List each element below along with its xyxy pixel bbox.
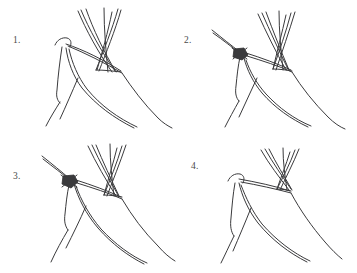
cover-group xyxy=(225,53,345,129)
cover-group xyxy=(51,180,175,264)
panel-4-drawing xyxy=(178,136,356,272)
panel-2-drawing xyxy=(178,0,356,136)
panel-1: 1. xyxy=(0,0,178,136)
panel-2: 2. xyxy=(178,0,356,136)
poles-group xyxy=(261,148,299,190)
cover-group xyxy=(46,38,172,128)
poles-group xyxy=(78,8,121,72)
figure-sheet: 1. xyxy=(0,0,357,273)
panel-3: 3. xyxy=(0,136,178,272)
lashing-knot xyxy=(61,175,78,188)
panel-4: 4. xyxy=(178,136,356,272)
panel-3-drawing xyxy=(0,136,178,272)
panel-1-drawing xyxy=(0,0,178,136)
